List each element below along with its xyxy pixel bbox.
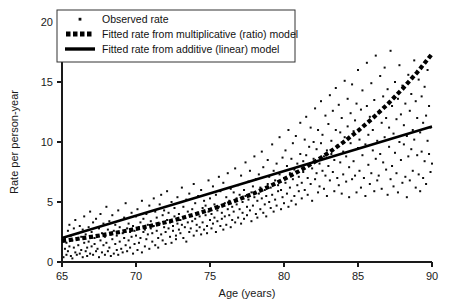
data-point [384, 67, 386, 69]
data-point [200, 189, 202, 191]
data-point [209, 219, 211, 221]
data-point [262, 212, 264, 214]
data-point [361, 154, 363, 156]
data-point [305, 116, 307, 118]
data-point [335, 87, 337, 89]
data-point [205, 214, 207, 216]
data-point [122, 251, 124, 253]
data-point [410, 148, 412, 150]
data-point [425, 115, 427, 117]
data-point [126, 227, 128, 229]
data-point [135, 235, 137, 237]
data-point [350, 112, 352, 114]
data-point [212, 223, 214, 225]
data-point [166, 219, 168, 221]
data-point [428, 153, 430, 155]
data-point [395, 118, 397, 120]
data-point [407, 155, 409, 157]
data-point [172, 230, 174, 232]
data-point [79, 253, 81, 255]
data-point [299, 153, 301, 155]
data-point [409, 110, 411, 112]
data-point [234, 167, 236, 169]
data-point [324, 115, 326, 117]
data-point [255, 213, 257, 215]
data-point [142, 218, 144, 220]
data-point [213, 203, 215, 205]
data-point [301, 197, 303, 199]
data-point [101, 251, 103, 253]
data-point [64, 248, 66, 250]
data-point [407, 74, 409, 76]
data-point [279, 136, 281, 138]
data-point [147, 233, 149, 235]
data-point [68, 224, 70, 226]
data-point [276, 205, 278, 207]
data-point [397, 98, 399, 100]
data-point [256, 217, 258, 219]
data-point [316, 172, 318, 174]
data-point [107, 229, 109, 231]
y-axis-title: Rate per person-year [8, 90, 20, 194]
data-point [131, 212, 133, 214]
data-point [431, 163, 433, 165]
data-point [182, 237, 184, 239]
legend-item-label: Observed rate [102, 13, 169, 25]
data-point [205, 205, 207, 207]
data-point [246, 214, 248, 216]
data-point [85, 233, 87, 235]
data-point [277, 184, 279, 186]
data-point [163, 209, 165, 211]
data-point [390, 178, 392, 180]
data-point [267, 159, 269, 161]
data-point [286, 165, 288, 167]
data-point [89, 211, 91, 213]
data-point [258, 173, 260, 175]
data-point [398, 141, 400, 143]
data-point [240, 223, 242, 225]
data-point [373, 99, 375, 101]
data-point [147, 224, 149, 226]
data-point [382, 161, 384, 163]
data-point [292, 142, 294, 144]
data-point [361, 89, 363, 91]
data-point [345, 181, 347, 183]
data-point [86, 255, 88, 257]
data-point [168, 212, 170, 214]
legend-item-label: Fitted rate from multiplicative (ratio) … [102, 28, 298, 40]
data-point [247, 199, 249, 201]
data-point [282, 157, 284, 159]
data-point [242, 201, 244, 203]
data-point [221, 218, 223, 220]
data-point [253, 155, 255, 157]
data-point [213, 217, 215, 219]
data-point [67, 250, 69, 252]
data-point [422, 122, 424, 124]
data-point [88, 226, 90, 228]
data-point [162, 239, 164, 241]
data-point [375, 55, 377, 57]
data-point [240, 175, 242, 177]
data-point [202, 207, 204, 209]
data-point [120, 248, 122, 250]
data-point [107, 250, 109, 252]
data-point [357, 69, 359, 71]
data-point [105, 242, 107, 244]
data-point [91, 231, 93, 233]
data-point [185, 241, 187, 243]
data-point [117, 209, 119, 211]
data-point [354, 175, 356, 177]
data-point [70, 255, 72, 257]
data-point [268, 201, 270, 203]
data-point [299, 122, 301, 124]
data-point [313, 158, 315, 160]
data-point [364, 195, 366, 197]
data-point [274, 179, 276, 181]
data-point [296, 184, 298, 186]
data-point [332, 110, 334, 112]
data-point [413, 139, 415, 141]
data-point [305, 154, 307, 156]
data-point [187, 221, 189, 223]
data-point [200, 233, 202, 235]
observed-rate-points [62, 50, 433, 260]
